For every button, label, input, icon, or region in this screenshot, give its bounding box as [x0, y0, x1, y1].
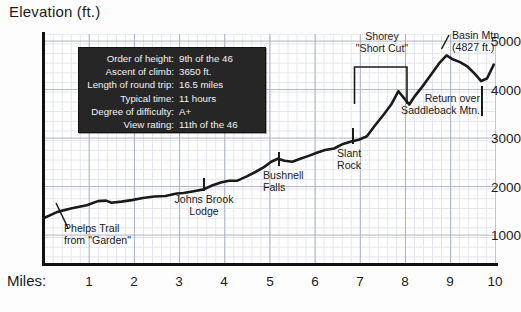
x-tick-8: 8 [392, 274, 418, 289]
annotation-line: Phelps Trail [64, 222, 131, 234]
info-key: Typical time: [120, 92, 174, 105]
annotation-line: Bushnell [263, 169, 304, 181]
x-tick-3: 3 [166, 274, 192, 289]
info-value: 16.5 miles [174, 78, 257, 91]
annotation-line: Saddleback Mtn. [389, 104, 480, 116]
info-row: Degree of difficulty: A+ [85, 105, 257, 118]
x-tick-7: 7 [347, 274, 373, 289]
info-key: Degree of difficulty: [91, 105, 174, 118]
x-axis-title: Miles: [7, 272, 46, 289]
info-value: 3650 ft. [174, 65, 257, 78]
johns-brook-lodge-tickmark [203, 178, 205, 191]
x-tick-9: 9 [437, 274, 463, 289]
info-value: 9th of the 46 [174, 52, 257, 65]
annotation-line: (4827 ft.) [452, 41, 502, 53]
annotation-return-saddleback-2: Saddleback Mtn. [389, 104, 480, 116]
annotation-bushnell-falls: Bushnell Falls [263, 169, 304, 194]
chart-title: Elevation (ft.) [9, 3, 100, 20]
x-tick-5: 5 [257, 274, 283, 289]
saddleback-return-tickmark [481, 86, 483, 116]
elevation-chart-figure: Elevation (ft.) 5000 4000 3000 2000 1000… [0, 0, 521, 312]
annotation-phelps-trail: Phelps Trail from "Garden" [64, 222, 131, 247]
annotation-shorey-short-cut: Shorey "Short Cut" [354, 30, 410, 55]
annotation-basin-mtn: Basin Mtn. (4827 ft.) [452, 29, 502, 54]
info-row: Ascent of climb: 3650 ft. [85, 65, 257, 78]
annotation-johns-brook-lodge: Johns Brook Lodge [172, 193, 236, 218]
info-row: Order of height: 9th of the 46 [85, 52, 257, 65]
annotation-line: "Short Cut" [354, 42, 410, 54]
annotation-line: Falls [263, 181, 304, 193]
info-key: View rating: [124, 118, 174, 131]
info-key: Order of height: [107, 52, 174, 65]
annotation-line: Slant [337, 147, 361, 159]
info-value: A+ [174, 105, 257, 118]
slant-rock-tickmark [352, 128, 354, 144]
annotation-line: Return over [408, 92, 480, 104]
annotation-line: Shorey [354, 30, 410, 42]
x-tick-2: 2 [121, 274, 147, 289]
info-row: Typical time: 11 hours [85, 92, 257, 105]
info-key: Length of round trip: [87, 78, 174, 91]
x-tick-6: 6 [302, 274, 328, 289]
info-value: 11 hours [174, 92, 257, 105]
annotation-line: from "Garden" [64, 234, 131, 246]
annotation-line: Rock [337, 159, 361, 171]
info-key: Ascent of climb: [106, 65, 174, 78]
annotation-line: Basin Mtn. [452, 29, 502, 41]
shorey-short-cut-bracket [353, 64, 411, 106]
info-row: Length of round trip: 16.5 miles [85, 78, 257, 91]
annotation-line: Johns Brook [172, 193, 236, 205]
x-tick-10: 10 [482, 274, 508, 289]
info-value: 11th of the 46 [174, 118, 257, 131]
annotation-line: Lodge [172, 205, 236, 217]
x-tick-4: 4 [211, 274, 237, 289]
info-row: View rating: 11th of the 46 [85, 118, 257, 131]
annotation-return-saddleback: Return over [408, 92, 480, 104]
annotation-slant-rock: Slant Rock [337, 147, 361, 172]
trail-info-box: Order of height: 9th of the 46 Ascent of… [78, 47, 266, 133]
bushnell-falls-tickmark [278, 152, 280, 166]
x-tick-1: 1 [76, 274, 102, 289]
